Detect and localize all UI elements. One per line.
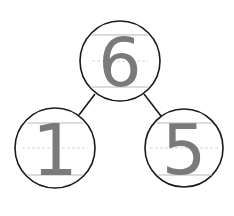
connector-right <box>144 94 161 116</box>
number-bond-diagram: 6 1 5 <box>0 0 234 216</box>
whole-value: 6 <box>98 23 141 102</box>
part-circle-right: 5 <box>145 109 223 191</box>
part-right-value: 5 <box>162 109 207 191</box>
part-left-value: 1 <box>32 108 78 192</box>
part-circle-left: 1 <box>15 108 95 192</box>
whole-circle: 6 <box>80 21 160 102</box>
connector-left <box>79 94 95 115</box>
